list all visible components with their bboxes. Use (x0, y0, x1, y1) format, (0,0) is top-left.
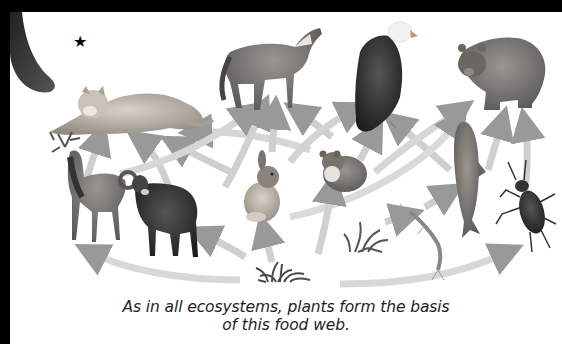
bighorn-sheep-illustration (120, 172, 198, 257)
trout-illustration (454, 122, 486, 238)
arrow-grass-to-elk (90, 252, 240, 280)
caption-line-1: As in all ecosystems, plants form the ba… (10, 298, 562, 316)
arrow-rabbit-to-wolf (272, 112, 275, 152)
arrow-mouse-to-eagle (360, 132, 375, 160)
rabbit-illustration (244, 150, 280, 222)
bald-eagle-illustration (355, 22, 418, 131)
food-web-diagram (10, 12, 562, 297)
grizzly-bear-illustration (458, 38, 545, 110)
elk-illustration (50, 132, 126, 242)
arrow-grass-to-rabbit (264, 230, 272, 262)
wolf-illustration (222, 28, 322, 110)
arrow-grass-to-beetle (340, 252, 508, 284)
mountain-lion-illustration (50, 86, 213, 135)
arrow-elk-to-lion (87, 137, 100, 177)
arrow-grass-to-mouse (318, 187, 332, 254)
food-web-figure: ★ (10, 12, 562, 344)
caption-line-2: of this food web. (10, 316, 562, 334)
grass-illustration (256, 262, 310, 282)
arrow-trout-to-bear (488, 122, 502, 170)
aquatic-plant-illustration (344, 222, 388, 252)
arrow-elk-to-wolf (225, 110, 262, 187)
arrow-insect-to-trout (425, 192, 450, 207)
arrow-plant-to-insect (385, 215, 408, 222)
figure-caption: As in all ecosystems, plants form the ba… (10, 298, 562, 334)
arrow-grass-to-sheep (202, 234, 245, 257)
